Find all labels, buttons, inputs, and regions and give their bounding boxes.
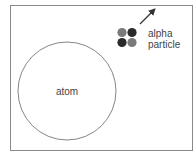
atom-label: atom [56,86,78,97]
proton-ball [127,38,136,47]
alpha-label-line2: particle [148,39,181,50]
proton-ball [117,28,126,37]
neutron-ball [127,28,136,37]
alpha-label-line1: alpha [148,28,173,39]
diagram-canvas: atom alpha particle [0,0,196,155]
neutron-ball [117,38,126,47]
